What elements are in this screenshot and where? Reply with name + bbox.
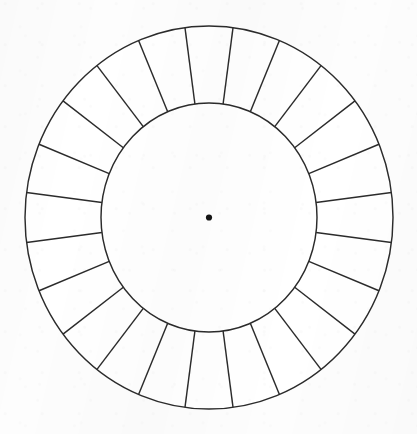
- color-wheel-figure: [0, 0, 417, 434]
- wheel-diagram-canvas: [0, 0, 417, 434]
- wheel-center-dot: [206, 214, 212, 220]
